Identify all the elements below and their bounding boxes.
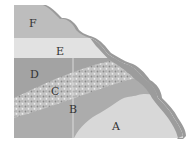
label-f: F — [29, 18, 37, 29]
label-c: C — [51, 86, 59, 97]
label-b: B — [69, 104, 77, 115]
label-d: D — [30, 69, 39, 80]
label-a: A — [112, 121, 120, 132]
label-e: E — [56, 46, 64, 57]
layer-f — [14, 5, 188, 39]
